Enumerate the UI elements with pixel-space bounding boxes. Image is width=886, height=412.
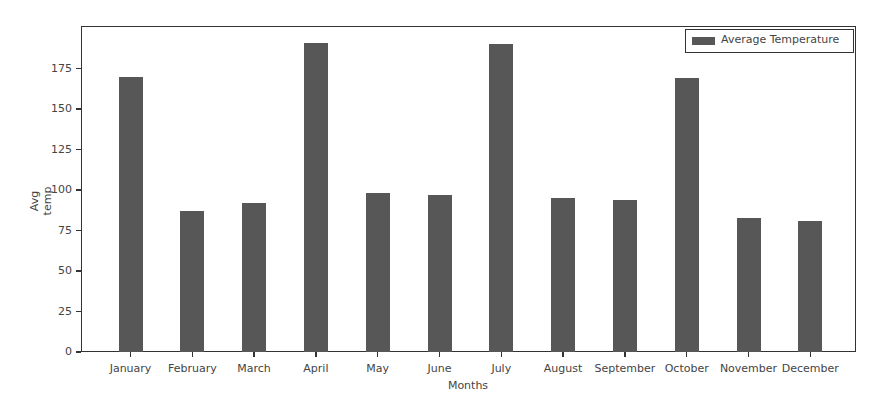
bar-april [304, 43, 328, 352]
x-tick [315, 352, 317, 357]
x-tick [253, 352, 255, 357]
x-tick [130, 352, 132, 357]
legend-swatch [692, 37, 715, 45]
bar-october [675, 78, 699, 352]
bar-august [551, 198, 575, 352]
x-tick [562, 352, 564, 357]
bar-march [242, 203, 266, 352]
y-tick [76, 149, 81, 151]
bar-september [613, 200, 637, 352]
y-tick-label: 175 [32, 62, 72, 75]
y-tick-label: 50 [32, 264, 72, 277]
bar-february [180, 211, 204, 352]
bar-june [428, 195, 452, 352]
y-tick [76, 311, 81, 313]
y-tick-label: 25 [32, 305, 72, 318]
y-axis-title: Avg temp [28, 176, 54, 226]
x-tick [439, 352, 441, 357]
x-tick [192, 352, 194, 357]
legend: Average Temperature [685, 29, 854, 53]
y-tick-label: 125 [32, 143, 72, 156]
y-tick [76, 189, 81, 191]
x-tick [501, 352, 503, 357]
bar-may [366, 193, 390, 352]
x-tick [810, 352, 812, 357]
bar-january [119, 77, 143, 352]
legend-label: Average Temperature [721, 33, 839, 46]
y-tick [76, 68, 81, 70]
x-axis-title: Months [418, 379, 518, 392]
bar-december [798, 221, 822, 352]
x-tick [686, 352, 688, 357]
y-tick [76, 270, 81, 272]
bar-chart: 0255075100125150175 JanuaryFebruaryMarch… [0, 0, 886, 412]
y-tick-label: 0 [32, 345, 72, 358]
x-tick [624, 352, 626, 357]
x-tick-label: December [770, 362, 850, 375]
bar-july [489, 44, 513, 352]
x-tick [377, 352, 379, 357]
x-tick [748, 352, 750, 357]
y-tick [76, 351, 81, 353]
y-tick [76, 230, 81, 232]
bar-november [737, 218, 761, 352]
y-tick-label: 150 [32, 102, 72, 115]
y-tick [76, 108, 81, 110]
